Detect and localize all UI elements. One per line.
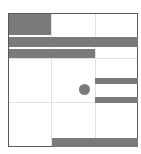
bar-right-lower[interactable] [95, 97, 138, 103]
bar-bottom[interactable] [52, 138, 138, 147]
grid-line-vertical-1 [51, 14, 52, 146]
circle-marker-icon[interactable] [79, 84, 90, 95]
puzzle-board [8, 13, 138, 147]
bar-full-width[interactable] [9, 37, 138, 47]
bar-right-upper[interactable] [95, 78, 138, 84]
grid-line-horizontal-1 [9, 58, 137, 59]
block-top-left[interactable] [9, 14, 51, 35]
bar-two-thirds[interactable] [9, 49, 95, 58]
